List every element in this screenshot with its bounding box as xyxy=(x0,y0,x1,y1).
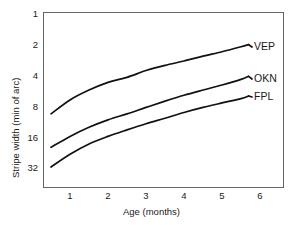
ytick-label-2: 2 xyxy=(12,40,38,50)
xtick-label-3: 3 xyxy=(134,191,158,201)
series-label-okn: OKN xyxy=(254,73,277,84)
plot-frame xyxy=(44,13,284,188)
leader-line-fpl xyxy=(249,96,252,97)
xtick-label-4: 4 xyxy=(172,191,196,201)
xtick-label-5: 5 xyxy=(210,191,234,201)
xtick-label-6: 6 xyxy=(248,191,272,201)
x-axis-title: Age (months) xyxy=(123,207,180,217)
y-axis-title: Stripe width (min of arc) xyxy=(11,78,21,178)
series-label-fpl: FPL xyxy=(254,91,273,102)
series-label-vep: VEP xyxy=(254,41,275,52)
xtick-label-1: 1 xyxy=(58,191,82,201)
ytick-label-1: 1 xyxy=(12,9,38,19)
chart-figure: 1 2 4 8 16 32 1 2 3 4 5 6 Stripe width (… xyxy=(0,0,296,225)
xtick-label-2: 2 xyxy=(96,191,120,201)
